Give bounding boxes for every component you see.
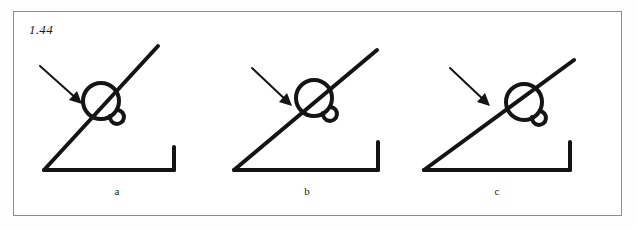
diagonal-ray-b	[234, 50, 377, 170]
circle-marker-c	[506, 84, 542, 120]
circle-marker-a	[83, 83, 119, 119]
angle-diagram-b-svg	[212, 30, 402, 190]
diagonal-ray-c	[424, 60, 574, 170]
circle-marker-b	[296, 80, 332, 116]
diagonal-ray-a	[44, 46, 158, 170]
panel-label-a: a	[22, 185, 212, 197]
arrow-shaft-c	[450, 68, 486, 102]
arrow-shaft-a	[40, 66, 78, 100]
diagram-panel-b: b	[212, 30, 402, 210]
diagram-panel-a: a	[22, 30, 212, 210]
panel-label-c: c	[402, 185, 592, 197]
panel-label-b: b	[212, 185, 402, 197]
arrow-shaft-b	[252, 68, 288, 102]
diagram-panel-c: c	[402, 30, 592, 210]
angle-diagram-c-svg	[402, 30, 592, 190]
angle-diagram-a-svg	[22, 30, 212, 190]
figure-root: 1.44 a b	[0, 0, 638, 230]
